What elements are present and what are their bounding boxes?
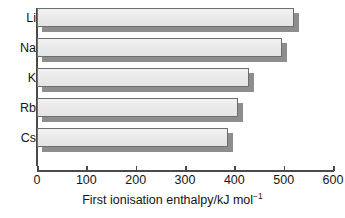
plot-area — [37, 8, 333, 164]
bar-row — [37, 98, 243, 122]
x-tick-label-0: 0 — [34, 174, 41, 187]
x-tick-600 — [333, 166, 335, 171]
bar-rb — [37, 98, 238, 117]
x-tick-200 — [136, 166, 138, 171]
bar-row — [37, 38, 287, 62]
bar-na — [37, 38, 282, 57]
bar-row — [37, 8, 299, 32]
x-axis-title-superscript: −1 — [253, 191, 263, 201]
x-tick-label-300: 300 — [175, 174, 196, 187]
bar-row — [37, 128, 233, 152]
category-label-k: K — [28, 72, 36, 85]
category-label-cs: Cs — [21, 132, 36, 145]
x-tick-300 — [185, 166, 187, 171]
x-axis-title: First ionisation enthalpy/kJ mol−1 — [0, 194, 345, 207]
x-tick-label-400: 400 — [224, 174, 245, 187]
x-tick-label-600: 600 — [323, 174, 344, 187]
x-tick-400 — [234, 166, 236, 171]
bar-cs — [37, 128, 228, 147]
x-axis-title-text: First ionisation enthalpy/kJ mol — [82, 193, 253, 207]
ionisation-enthalpy-bar-chart: LiNaKRbCs 0100200300400500600 First ioni… — [0, 0, 345, 218]
category-label-li: Li — [26, 12, 36, 25]
category-label-na: Na — [20, 42, 36, 55]
x-tick-label-100: 100 — [76, 174, 97, 187]
bar-row — [37, 68, 254, 92]
bar-k — [37, 68, 249, 87]
x-tick-500 — [284, 166, 286, 171]
x-tick-label-200: 200 — [125, 174, 146, 187]
bar-li — [37, 8, 294, 27]
x-tick-100 — [86, 166, 88, 171]
x-tick-label-500: 500 — [273, 174, 294, 187]
category-label-rb: Rb — [20, 102, 36, 115]
x-tick-0 — [37, 166, 39, 171]
